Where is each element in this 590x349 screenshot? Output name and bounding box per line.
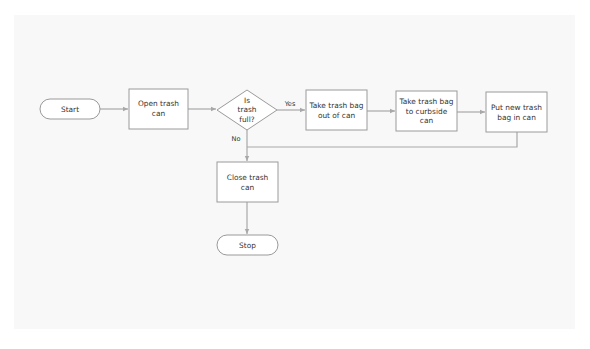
- node-close-trash-can[interactable]: Close trash can: [217, 162, 278, 202]
- node-label: Close trash: [227, 173, 269, 182]
- node-label: Take trash bag: [399, 97, 454, 106]
- node-start[interactable]: Start: [40, 99, 100, 119]
- node-take-bag-out[interactable]: Take trash bag out of can: [306, 90, 367, 130]
- node-put-new-bag[interactable]: Put new trash bag in can: [486, 92, 547, 132]
- node-label: Take trash bag: [309, 101, 364, 110]
- node-open-trash-can[interactable]: Open trash can: [129, 89, 188, 129]
- node-label: Put new trash: [491, 103, 542, 112]
- node-label: Is: [244, 96, 250, 105]
- node-label: can: [152, 109, 166, 118]
- node-label: can: [420, 116, 434, 125]
- edge-label-yes: Yes: [284, 100, 296, 108]
- node-take-bag-to-curbside[interactable]: Take trash bag to curbside can: [396, 91, 457, 131]
- node-label: Stop: [239, 241, 256, 250]
- node-label: Start: [61, 105, 79, 114]
- node-label: can: [241, 183, 255, 192]
- node-label: to curbside: [406, 107, 448, 116]
- node-label: bag in can: [497, 113, 536, 122]
- node-label: full?: [239, 115, 254, 124]
- node-label: trash: [238, 105, 257, 114]
- node-label: out of can: [318, 111, 356, 120]
- node-label: Open trash: [138, 99, 179, 108]
- node-stop[interactable]: Stop: [217, 235, 278, 255]
- edge-putnew-loop: [247, 132, 517, 147]
- edge-label-no: No: [232, 135, 241, 143]
- node-decision-is-trash-full[interactable]: Is trash full?: [217, 90, 277, 130]
- flowchart: Start Open trash can Is trash full? Yes …: [0, 0, 590, 349]
